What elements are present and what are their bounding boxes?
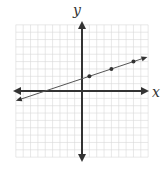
y-axis-down-arrow-icon	[78, 154, 86, 162]
axes	[13, 21, 149, 162]
line-right-arrow-icon	[141, 56, 148, 61]
x-axis-label: x	[152, 85, 160, 99]
data-point	[109, 67, 113, 71]
coordinate-plane	[0, 0, 166, 170]
x-axis-left-arrow-icon	[13, 87, 21, 95]
data-point	[131, 60, 135, 64]
line-left-arrow-icon	[16, 96, 23, 101]
x-axis-right-arrow-icon	[141, 87, 149, 95]
y-axis-label: y	[73, 3, 81, 17]
data-point	[87, 74, 91, 78]
